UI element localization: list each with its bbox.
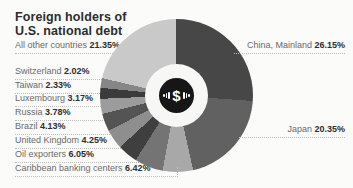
legend-label: China, Mainland <box>247 40 312 50</box>
legend-label: All other countries <box>15 40 87 50</box>
legend-value: 20.35% <box>314 124 345 134</box>
legend-item-luxembourg: Luxembourg 3.17% <box>15 93 101 107</box>
legend-value: 4.25% <box>82 135 108 145</box>
bars-right-icon <box>183 92 190 100</box>
legend-label: Japan <box>287 124 312 134</box>
chart-title: Foreign holders of U.S. national debt <box>15 10 127 39</box>
bars-left-icon <box>163 92 170 100</box>
legend-label: Luxembourg <box>15 93 65 103</box>
legend-label: Brazil <box>15 121 38 131</box>
legend-item-china-mainland: China, Mainland 26.15% <box>234 40 345 54</box>
dollar-coin-icon: $ <box>159 78 194 113</box>
legend-value: 3.17% <box>68 93 94 103</box>
legend-value: 2.33% <box>46 80 72 90</box>
legend-label: Caribbean banking centers <box>15 163 123 173</box>
chart-title-line1: Foreign holders of <box>15 10 127 24</box>
legend-item-russia: Russia 3.78% <box>15 107 105 121</box>
infographic: Foreign holders of U.S. national debt Al… <box>0 0 353 188</box>
legend-label: Taiwan <box>15 80 43 90</box>
leader-line-caribbean <box>177 167 178 177</box>
legend-item-united-kingdom: United Kingdom 4.25% <box>15 135 123 149</box>
legend-value: 26.15% <box>314 40 345 50</box>
legend-value: 3.78% <box>45 107 71 117</box>
legend-label: Russia <box>15 107 43 117</box>
legend-label: United Kingdom <box>15 135 79 145</box>
legend-label: Oil exporters <box>15 149 66 159</box>
chart-title-line2: U.S. national debt <box>15 24 127 38</box>
legend-item-switzerland: Switzerland 2.02% <box>15 66 102 80</box>
legend-value: 4.13% <box>40 121 66 131</box>
legend-value: 2.02% <box>64 66 90 76</box>
legend-item-brazil: Brazil 4.13% <box>15 121 112 135</box>
legend-value: 6.05% <box>69 149 95 159</box>
legend-item-taiwan: Taiwan 2.33% <box>15 80 100 94</box>
dollar-sign-icon: $ <box>172 88 180 103</box>
legend-item-japan: Japan 20.35% <box>239 124 345 138</box>
legend-label: Switzerland <box>15 66 62 76</box>
legend-item-all-other-countries: All other countries 21.35% <box>15 40 113 54</box>
